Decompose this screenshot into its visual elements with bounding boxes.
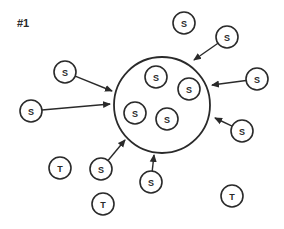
arrow-icon [152, 155, 154, 171]
node-label: S [239, 127, 245, 137]
arrow-icon [194, 43, 218, 60]
node-label: S [28, 107, 34, 117]
node-label: T [57, 164, 63, 174]
s-node: S [145, 66, 167, 88]
node-label: S [148, 178, 154, 188]
arrow-icon [212, 80, 246, 85]
s-node: S [231, 120, 253, 142]
s-node: S [124, 102, 146, 124]
s-node: S [20, 100, 42, 122]
s-node: S [173, 12, 195, 34]
s-node: S [156, 108, 178, 130]
s-node: S [54, 61, 76, 83]
s-node: S [246, 68, 268, 90]
node-label: S [164, 115, 170, 125]
node-label: S [132, 109, 138, 119]
arrow-icon [42, 104, 110, 110]
s-node: S [140, 171, 162, 193]
node-label: T [100, 200, 106, 210]
node-label: S [224, 33, 230, 43]
node-label: T [229, 192, 235, 202]
node-label: S [254, 75, 260, 85]
t-node: T [221, 185, 243, 207]
s-node: S [90, 158, 112, 180]
s-node: S [216, 26, 238, 48]
node-label: S [181, 19, 187, 29]
node-label: S [153, 73, 159, 83]
s-node: S [178, 78, 200, 100]
t-node: T [92, 193, 114, 215]
node-label: S [98, 165, 104, 175]
node-label: S [62, 68, 68, 78]
diagram-canvas: #1 SSSS SSSSSSTSSTT [0, 0, 284, 229]
node-label: S [186, 85, 192, 95]
t-node: T [49, 157, 71, 179]
diagram-title: #1 [17, 17, 29, 29]
arrow-icon [215, 118, 232, 126]
arrow-icon [75, 76, 112, 91]
arrow-icon [108, 140, 125, 161]
